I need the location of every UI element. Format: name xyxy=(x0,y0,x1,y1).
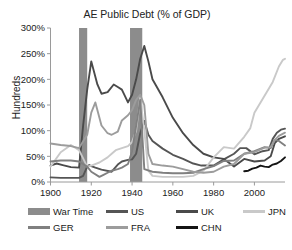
legend-item-chn[interactable]: CHN xyxy=(176,222,222,233)
legend-label: UK xyxy=(201,206,214,217)
x-tick-label: 1920 xyxy=(81,187,102,198)
legend-item-ger[interactable]: GER xyxy=(28,222,74,233)
y-tick-label: 100% xyxy=(21,125,46,136)
legend-label: JPN xyxy=(268,206,286,217)
legend-item-war-time[interactable]: War Time xyxy=(28,206,93,217)
legend-label: CHN xyxy=(201,222,222,233)
x-tick-label: 1980 xyxy=(203,187,224,198)
legend-band-swatch xyxy=(28,208,50,215)
legend-label: FRA xyxy=(131,222,150,233)
y-tick-label: 250% xyxy=(21,48,46,59)
legend-item-uk[interactable]: UK xyxy=(176,206,214,217)
legend-item-us[interactable]: US xyxy=(106,206,144,217)
x-tick-label: 1960 xyxy=(162,187,183,198)
chart-svg: 0%50%100%150%200%250%300% 19001920194019… xyxy=(0,0,292,205)
x-tick-label: 1940 xyxy=(121,187,142,198)
x-tick-label: 1900 xyxy=(40,187,61,198)
legend-line-swatch xyxy=(176,226,198,229)
legend-line-swatch xyxy=(106,226,128,229)
y-tick-label: 0% xyxy=(31,176,45,187)
legend-label: US xyxy=(131,206,144,217)
y-tick-label: 150% xyxy=(21,99,46,110)
legend-line-swatch xyxy=(176,210,198,213)
legend-line-swatch xyxy=(28,226,50,229)
chart-legend: War TimeUSUKJPNGERFRACHN xyxy=(0,205,292,245)
x-axis-ticks: 190019201940196019802000 xyxy=(40,182,265,198)
y-tick-label: 50% xyxy=(26,151,46,162)
legend-label: GER xyxy=(53,222,74,233)
legend-item-fra[interactable]: FRA xyxy=(106,222,150,233)
legend-item-jpn[interactable]: JPN xyxy=(243,206,286,217)
legend-line-swatch xyxy=(106,210,128,213)
y-tick-label: 200% xyxy=(21,74,46,85)
x-tick-label: 2000 xyxy=(244,187,265,198)
legend-label: War Time xyxy=(53,206,93,217)
legend-line-swatch xyxy=(243,210,265,213)
y-axis-ticks: 0%50%100%150%200%250%300% xyxy=(21,22,51,187)
y-tick-label: 300% xyxy=(21,22,46,33)
chart-figure: AE Public Debt (% of GDP) Hundreds 0%50%… xyxy=(0,0,292,250)
